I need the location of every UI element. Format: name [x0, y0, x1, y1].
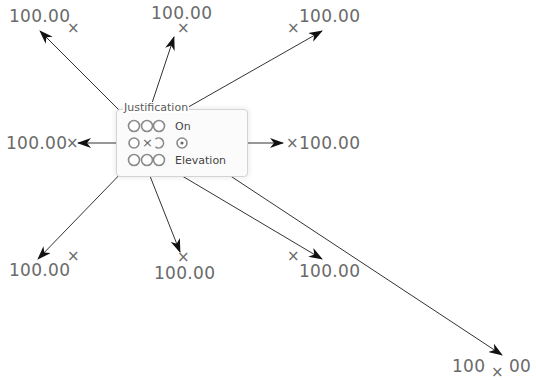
- callout-top-center-mark-icon: ×: [177, 21, 190, 36]
- callout-middle-right-value: 100.00: [299, 135, 360, 152]
- callout-top-left-value: 100.00: [9, 8, 70, 25]
- callout-bottom-right-value: 100.00: [299, 263, 360, 280]
- center-mark-icon: ×: [142, 136, 153, 149]
- callout-far-bottom-right-mark-icon: ×: [491, 365, 504, 380]
- callout-top-right-value: 100.00: [299, 8, 360, 25]
- leader-elevation: [185, 146, 502, 355]
- leader-bottom-center: [146, 166, 180, 252]
- callout-top-left-mark-icon: ×: [67, 21, 80, 36]
- option-elevation-label: Elevation: [175, 155, 226, 166]
- callout-middle-left-value: 100.00: [6, 135, 67, 152]
- leader-lines: [0, 0, 536, 380]
- callout-far-bottom-right-value-left: 100: [452, 358, 485, 375]
- leader-bottom-right: [162, 164, 322, 259]
- leader-bottom-left: [38, 165, 129, 259]
- callout-far-bottom-right-value-right: 00: [509, 358, 531, 375]
- callout-bottom-center-value: 100.00: [154, 265, 215, 282]
- callout-middle-left-mark-icon: ×: [66, 136, 79, 151]
- option-on-label: On: [175, 121, 191, 132]
- callout-bottom-right-mark-icon: ×: [287, 249, 300, 264]
- callout-middle-right-mark-icon: ×: [286, 136, 299, 151]
- callout-bottom-left-value: 100.00: [9, 262, 70, 279]
- leader-top-left: [40, 31, 131, 122]
- callout-top-right-mark-icon: ×: [287, 21, 300, 36]
- justification-group-title: Justification: [123, 102, 189, 113]
